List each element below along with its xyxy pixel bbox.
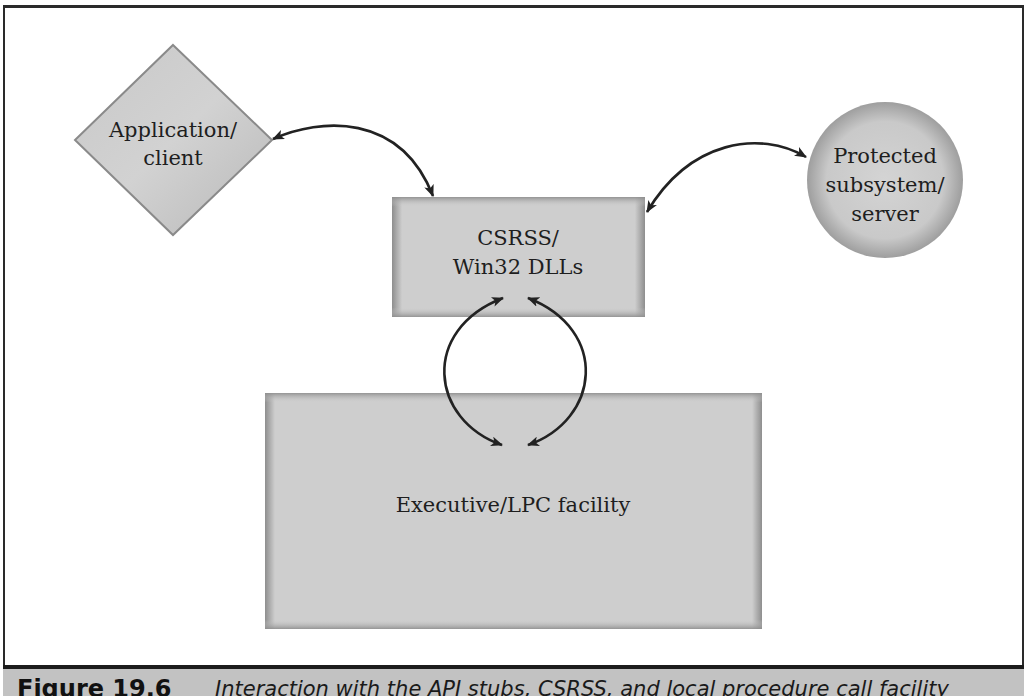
node-csrss: CSRSS/ Win32 DLLs [392,197,645,317]
label-protected-line1: Protected [833,144,937,168]
label-protected-line2: subsystem/ [825,173,945,197]
figure-caption: Figure 19.6 Interaction with the API stu… [3,665,1024,696]
label-application-line2: client [143,146,203,170]
label-application-line1: Application/ [108,118,238,142]
node-protected-subsystem: Protected subsystem/ server [807,102,963,258]
figure-canvas: Application/ client CSRSS/ Win32 DLLs Pr… [0,0,1028,696]
figure-caption-text: Interaction with the API stubs, CSRSS, a… [215,677,949,696]
diagram: Application/ client CSRSS/ Win32 DLLs Pr… [0,0,1028,696]
label-csrss-line2: Win32 DLLs [453,255,583,279]
label-csrss-line1: CSRSS/ [477,226,560,250]
label-protected-line3: server [851,202,920,226]
node-application-client: Application/ client [75,45,272,235]
node-executive: Executive/LPC facility [265,393,762,629]
arrow-app-csrss [273,126,433,196]
figure-number: Figure 19.6 [17,675,172,696]
label-executive: Executive/LPC facility [396,493,631,517]
arrow-csrss-protected [647,143,806,212]
